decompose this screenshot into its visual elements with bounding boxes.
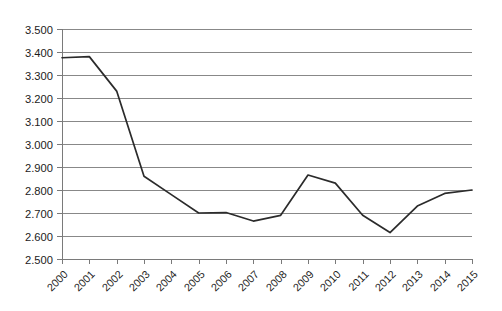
x-tick-label: 2009 [290, 268, 315, 293]
y-tick-label: 3.100 [25, 116, 53, 128]
x-tick-label: 2000 [44, 268, 69, 293]
line-chart-figure: 3.5003.4003.3003.2003.1003.0002.9002.800… [0, 0, 502, 311]
x-axis-tick-labels: 2000200120022003200420052006200720082009… [44, 268, 479, 293]
x-tick-label: 2012 [372, 268, 397, 293]
y-tick-label: 2.700 [25, 208, 53, 220]
x-tick-label: 2010 [317, 268, 342, 293]
plot-area: 3.5003.4003.3003.2003.1003.0002.9002.800… [0, 0, 502, 311]
x-tick-label: 2013 [399, 268, 424, 293]
y-tick-label: 2.800 [25, 185, 53, 197]
x-tick-label: 2005 [181, 268, 206, 293]
x-tick-label: 2001 [71, 268, 96, 293]
x-tick-label: 2015 [454, 268, 479, 293]
x-tick-label: 2011 [346, 268, 371, 293]
chart-canvas: 3.5003.4003.3003.2003.1003.0002.9002.800… [0, 0, 502, 311]
y-tick-label: 2.500 [25, 254, 53, 266]
y-tick-label: 3.300 [25, 70, 53, 82]
x-tick-label: 2008 [263, 268, 288, 293]
x-tick-label: 2007 [235, 268, 260, 293]
figure-caption [12, 300, 342, 309]
y-tick-label: 3.500 [25, 24, 53, 36]
x-tick-label: 2006 [208, 268, 233, 293]
x-tick-label: 2004 [153, 268, 178, 293]
y-tick-label: 3.400 [25, 47, 53, 59]
y-tick-label: 3.200 [25, 93, 53, 105]
y-tick-label: 3.000 [25, 139, 53, 151]
y-axis-tick-labels: 3.5003.4003.3003.2003.1003.0002.9002.800… [25, 24, 53, 266]
y-tick-label: 2.600 [25, 231, 53, 243]
gridlines-group [57, 30, 472, 260]
y-tick-label: 2.900 [25, 162, 53, 174]
x-tick-label: 2014 [427, 268, 452, 293]
x-tick-label: 2003 [126, 268, 151, 293]
x-tick-label: 2002 [99, 268, 124, 293]
